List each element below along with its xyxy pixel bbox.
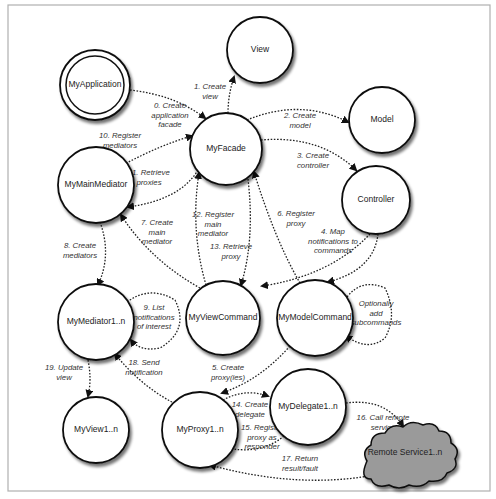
edge-e2: 2. Createmodel bbox=[247, 109, 348, 129]
node-label: MyFacade bbox=[206, 143, 246, 153]
edge-label: 7. Createmainmediator bbox=[141, 218, 174, 246]
node-controller: Controller bbox=[342, 166, 410, 234]
edge-e3: 3. Createcontroller bbox=[261, 139, 356, 170]
edge-e8: 8. Createmediators bbox=[63, 222, 106, 285]
edge-label: 13. Retrieveproxy bbox=[210, 242, 253, 261]
edge-e18: 18. Sendnotification bbox=[115, 354, 172, 402]
edge-label: 14. Createdelegate bbox=[232, 400, 269, 419]
node-label: MyMediator1..n bbox=[67, 316, 126, 326]
edge-e19: 19. Updateview bbox=[45, 360, 90, 396]
node-label: MyModelCommand bbox=[278, 312, 352, 322]
arrow-icon bbox=[88, 360, 90, 396]
arrow-icon bbox=[241, 179, 250, 285]
edge-label: 3. Createcontroller bbox=[297, 151, 330, 170]
node-myproxy: MyProxy1..n bbox=[162, 392, 238, 468]
edge-label: 19. Updateview bbox=[45, 363, 84, 382]
edge-eopt: Optionallyaddsubcommands bbox=[346, 285, 401, 345]
node-model: Model bbox=[349, 87, 415, 153]
node-label: MyMainMediator bbox=[65, 179, 128, 189]
edge-e0: 0. Createapplicationfacade bbox=[130, 90, 205, 129]
edge-label: 10. Registermediators bbox=[99, 131, 141, 150]
node-mydelegate: MyDelegate1..n bbox=[270, 369, 346, 445]
node-label: Model bbox=[370, 114, 393, 124]
architecture-diagram: 0. Createapplicationfacade1. Createview2… bbox=[0, 0, 496, 499]
node-label: MyApplication bbox=[69, 79, 122, 89]
remote-service-cloud: Remote Service1..n bbox=[364, 422, 457, 488]
edge-label: 1. Createview bbox=[194, 82, 227, 101]
edge-e6: 6. Registerproxy bbox=[254, 172, 315, 283]
edge-label: 2. Createmodel bbox=[283, 111, 317, 130]
node-view: View bbox=[227, 17, 293, 83]
edge-label: 5. Createproxy(ies) bbox=[210, 363, 246, 382]
node-mymediator: MyMediator1..n bbox=[58, 284, 134, 360]
node-label: Controller bbox=[358, 194, 395, 204]
edge-label: 6. Registerproxy bbox=[277, 209, 315, 228]
diagram-canvas: 0. Createapplicationfacade1. Createview2… bbox=[0, 0, 496, 499]
edge-label: 17. Returnresult/fault bbox=[282, 454, 319, 473]
node-mymodelcommand: MyModelCommand bbox=[277, 280, 353, 356]
node-myview: MyView1..n bbox=[63, 397, 129, 463]
node-label: MyView1..n bbox=[74, 424, 118, 434]
node-label: Remote Service1..n bbox=[368, 447, 443, 457]
edge-label: Optionallyaddsubcommands bbox=[351, 299, 402, 327]
edge-e7: 7. Createmainmediator bbox=[121, 215, 200, 288]
node-label: MyViewCommand bbox=[189, 312, 258, 322]
arrow-icon bbox=[254, 172, 300, 283]
edge-e1: 1. Createview bbox=[194, 77, 234, 113]
node-label: MyProxy1..n bbox=[176, 424, 224, 434]
edge-e4a: 4. Mapnotifications tocommands bbox=[262, 227, 370, 286]
node-label: View bbox=[251, 44, 270, 54]
node-myviewcommand: MyViewCommand bbox=[186, 281, 260, 355]
node-myapplication: MyApplication bbox=[60, 50, 130, 120]
edge-label: 18. Sendnotification bbox=[125, 358, 162, 377]
edge-label: 8. Createmediators bbox=[63, 241, 97, 260]
arrow-icon bbox=[98, 222, 106, 285]
edge-e9: 9. Listnotificationsof interest bbox=[127, 293, 180, 349]
arrow-icon bbox=[223, 393, 268, 400]
edge-label: 9. Listnotificationsof interest bbox=[133, 303, 174, 331]
edge-e12: 12. Registermainmediator bbox=[192, 173, 234, 285]
node-label: MyDelegate1..n bbox=[278, 401, 338, 411]
node-mymainmediator: MyMainMediator bbox=[58, 147, 134, 223]
edge-label: 4. Mapnotifications tocommands bbox=[308, 227, 359, 255]
arrow-icon bbox=[228, 77, 234, 113]
edge-label: 12. Registermainmediator bbox=[192, 210, 234, 238]
edge-e17: 17. Returnresult/fault bbox=[210, 454, 380, 480]
edge-label: 0. Createapplicationfacade bbox=[151, 101, 188, 129]
node-myfacade: MyFacade bbox=[190, 113, 262, 185]
edge-e11: 11. Retrieveproxies bbox=[128, 168, 198, 207]
